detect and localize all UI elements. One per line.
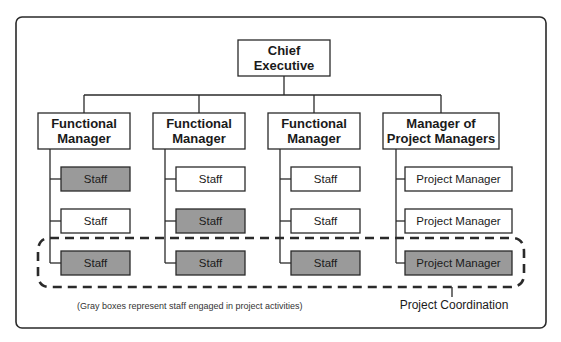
staff-label: Staff: [84, 173, 108, 185]
chief-executive-label-line2: Executive: [254, 58, 315, 73]
manager-label-line1: Manager of: [406, 116, 476, 131]
project-coordination-label: Project Coordination: [400, 298, 509, 312]
manager-label-line2: Project Managers: [387, 131, 495, 146]
staff-label: Staff: [199, 173, 223, 185]
staff-label: Project Manager: [416, 215, 501, 227]
staff-label: Project Manager: [416, 257, 501, 269]
staff-label: Staff: [199, 215, 223, 227]
staff-label: Staff: [84, 215, 108, 227]
manager-label-line2: Manager: [287, 131, 340, 146]
manager-label-line2: Manager: [172, 131, 225, 146]
chief-executive-node: Chief Executive: [238, 40, 330, 76]
staff-label: Staff: [314, 257, 338, 269]
staff-label: Staff: [314, 173, 338, 185]
manager-label-line1: Functional: [281, 116, 347, 131]
staff-label: Project Manager: [416, 173, 501, 185]
org-chart: Chief Executive FunctionalManagerStaffSt…: [0, 0, 561, 342]
staff-label: Staff: [199, 257, 223, 269]
staff-label: Staff: [84, 257, 108, 269]
chief-executive-label-line1: Chief: [268, 43, 301, 58]
legend-caption: (Gray boxes represent staff engaged in p…: [77, 301, 302, 311]
manager-label-line1: Functional: [166, 116, 232, 131]
staff-label: Staff: [314, 215, 338, 227]
manager-label-line2: Manager: [57, 131, 110, 146]
manager-label-line1: Functional: [51, 116, 117, 131]
